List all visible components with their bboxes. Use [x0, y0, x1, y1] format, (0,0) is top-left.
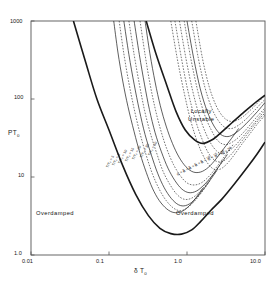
- locally-unstable-line1: Locally: [188, 108, 214, 116]
- x-axis-title-text: δ T: [134, 267, 144, 274]
- x-axis-title: δ T0: [134, 267, 147, 276]
- region-label-locally-unstable: Locally Unstable: [188, 108, 214, 123]
- locally-unstable-line2: Unstable: [188, 116, 214, 124]
- region-label-overdamped-left: Overdamped: [36, 210, 74, 218]
- curve-curve-T20: [134, 21, 227, 193]
- curve-envelope-upper-right: [146, 21, 265, 143]
- stability-diagram-figure: T/T₀ = 5T/T₀ = 8T/T₀ = 10T/T₀ = 15T/T₀ =…: [0, 0, 279, 282]
- x-axis-title-sub: 0: [144, 271, 147, 276]
- y-axis-title-sub: 0: [17, 133, 20, 138]
- curves-group: T/T₀ = 5T/T₀ = 8T/T₀ = 10T/T₀ = 15T/T₀ =…: [73, 21, 265, 235]
- y-tick-label-1: 1.0: [14, 250, 22, 256]
- plot-frame: [31, 21, 265, 255]
- curve-label-right-7: R = 30: [221, 146, 232, 156]
- y-tick-label-10: 10: [18, 172, 24, 178]
- y-tick-label-100: 100: [14, 94, 23, 100]
- x-tick-label-0.01: 0.01: [22, 258, 33, 264]
- curve-curve-R20: [196, 21, 265, 121]
- curve-envelope-outer: [73, 21, 265, 235]
- x-tick-label-10.0: 10.0: [250, 258, 261, 264]
- plot-canvas: T/T₀ = 5T/T₀ = 8T/T₀ = 10T/T₀ = 15T/T₀ =…: [0, 0, 279, 282]
- region-label-overdamped-right: Overdamped: [176, 210, 214, 218]
- curve-curve-R5: [179, 21, 265, 154]
- y-axis-title: PT0: [8, 129, 20, 138]
- curve-curve-R8: [184, 21, 265, 145]
- x-tick-label-0.1: 0.1: [96, 258, 104, 264]
- x-tick-label-1.0: 1.0: [174, 258, 182, 264]
- curve-curve-R2: [171, 21, 265, 170]
- y-axis-title-text: PT: [8, 129, 17, 136]
- y-tick-label-1000: 1000: [10, 18, 22, 24]
- curve-curve-R3: [175, 21, 265, 162]
